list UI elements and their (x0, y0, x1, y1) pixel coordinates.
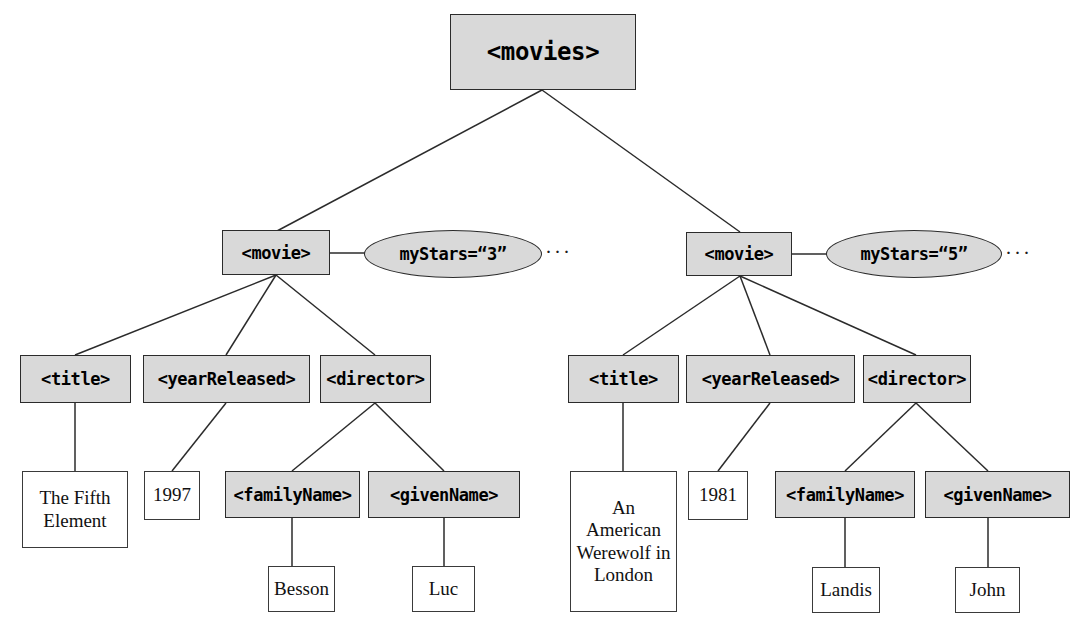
edge-movie1-title (75, 275, 276, 355)
node-element-givenname-1[interactable]: <givenName> (368, 471, 520, 518)
edge-movie2-title (623, 276, 740, 355)
attribute-ellipsis-1: ··· (545, 240, 572, 265)
node-text-title-1[interactable]: The Fifth Element (22, 471, 128, 548)
node-value: John (970, 579, 1006, 601)
node-value: 1981 (699, 484, 737, 506)
node-element-title-2[interactable]: <title> (568, 355, 679, 403)
node-element-movies[interactable]: <movies> (450, 14, 636, 90)
node-value: Besson (274, 578, 329, 600)
node-label: <givenName> (390, 485, 498, 505)
node-element-yearreleased-2[interactable]: <yearReleased> (686, 355, 855, 403)
node-element-givenname-2[interactable]: <givenName> (925, 471, 1070, 518)
edge-root-movie2 (542, 90, 740, 232)
edge-director2-family (845, 403, 916, 471)
node-label: <yearReleased> (702, 369, 840, 389)
node-text-title-2[interactable]: An American Werewolf in London (570, 471, 677, 612)
node-label: myStars=“3” (399, 244, 506, 264)
node-text-givenname-2[interactable]: John (955, 567, 1020, 613)
node-label: <yearReleased> (158, 369, 296, 389)
node-element-movie-2[interactable]: <movie> (686, 232, 792, 276)
edge-movie1-director (276, 275, 375, 355)
node-element-director-1[interactable]: <director> (320, 355, 431, 403)
node-label: <movie> (242, 243, 311, 263)
attribute-ellipsis-2: ··· (1005, 241, 1032, 266)
node-value: Landis (820, 579, 872, 601)
edge-director1-family (292, 403, 375, 471)
node-attribute-mystars-2[interactable]: myStars=“5” (826, 230, 1002, 278)
node-element-familyname-2[interactable]: <familyName> (775, 471, 915, 518)
node-value: Luc (429, 578, 459, 600)
node-attribute-mystars-1[interactable]: myStars=“3” (364, 230, 542, 278)
node-text-familyname-2[interactable]: Landis (812, 567, 880, 613)
edge-year1-text (172, 403, 226, 471)
node-label: <familyName> (786, 485, 904, 505)
edge-layer (0, 0, 1074, 633)
node-label: <director> (326, 369, 424, 389)
node-label: <movies> (487, 38, 599, 66)
node-element-yearreleased-1[interactable]: <yearReleased> (143, 355, 310, 403)
node-element-familyname-1[interactable]: <familyName> (225, 471, 360, 518)
edge-director2-given (916, 403, 988, 471)
node-element-title-1[interactable]: <title> (20, 355, 131, 403)
edge-movie1-year (226, 275, 276, 355)
node-label: <givenName> (943, 485, 1051, 505)
node-text-yearreleased-1[interactable]: 1997 (144, 471, 200, 520)
node-text-familyname-1[interactable]: Besson (268, 566, 335, 612)
node-element-movie-1[interactable]: <movie> (222, 230, 330, 275)
node-label: <director> (868, 369, 966, 389)
node-label: <familyName> (233, 485, 351, 505)
node-element-director-2[interactable]: <director> (863, 355, 971, 403)
edge-director1-given (375, 403, 444, 471)
node-label: myStars=“5” (860, 244, 967, 264)
edge-movie2-director (740, 276, 916, 355)
xml-tree-diagram: <movies> <movie> myStars=“3” ··· <title>… (0, 0, 1074, 633)
edge-root-movie1 (277, 90, 542, 231)
node-value: 1997 (153, 484, 191, 506)
node-value: The Fifth Element (26, 487, 124, 531)
node-text-givenname-1[interactable]: Luc (412, 566, 475, 612)
node-label: <title> (41, 369, 110, 389)
edge-year2-text (718, 403, 770, 471)
node-label: <title> (589, 369, 658, 389)
node-label: <movie> (705, 244, 774, 264)
node-value: An American Werewolf in London (574, 497, 673, 585)
node-text-yearreleased-2[interactable]: 1981 (688, 471, 748, 520)
